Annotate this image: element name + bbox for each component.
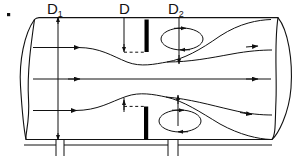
recirculation-eddy-lower: [159, 110, 201, 132]
streamline-lower: [33, 94, 271, 140]
orifice-plate-upper: [145, 20, 149, 53]
streamline-upper-branch: [167, 50, 272, 62]
streamline-upper: [33, 20, 271, 65]
label-d: D: [119, 0, 130, 17]
figure-canvas: D1 D D2: [0, 0, 298, 159]
pipe-top-wall: [35, 18, 279, 20]
streamline-upper-arrow-right: [246, 46, 258, 47]
orifice-plate-lower: [144, 107, 148, 140]
orifice-plate-diagram: D1 D D2: [0, 0, 298, 159]
streamline-lower-branch: [166, 97, 272, 115]
figure-corner-marker: [7, 13, 10, 16]
label-d2: D2: [168, 0, 184, 19]
label-d1: D1: [47, 0, 63, 19]
pipe-right-end-inner: [272, 18, 278, 140]
recirculation-eddy-upper: [161, 28, 203, 50]
